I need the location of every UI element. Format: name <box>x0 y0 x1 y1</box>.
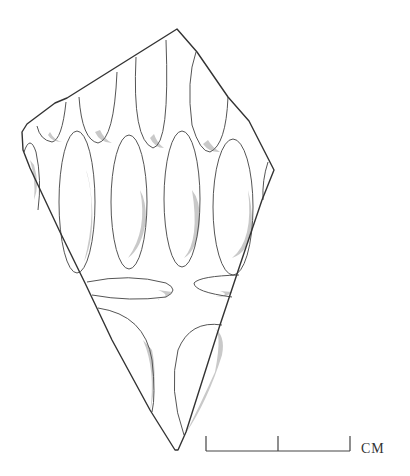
facets <box>24 40 268 435</box>
facet-top-3 <box>135 40 166 148</box>
facet-mid-2 <box>111 135 147 269</box>
facet-top-4 <box>190 52 228 152</box>
facet-mid-1 <box>59 131 95 273</box>
facet-horizontal-left <box>87 278 173 299</box>
facet-left-edge <box>24 143 40 210</box>
scale-unit-label: CM <box>361 441 385 457</box>
facet-shading <box>30 130 252 433</box>
facet-mid-4 <box>213 139 253 275</box>
scale-bar <box>206 436 350 451</box>
sherd-outline <box>22 29 274 450</box>
sherd-drawing <box>0 0 410 476</box>
facet-bottom-left <box>98 308 154 412</box>
facet-horizontal-right <box>194 275 239 297</box>
